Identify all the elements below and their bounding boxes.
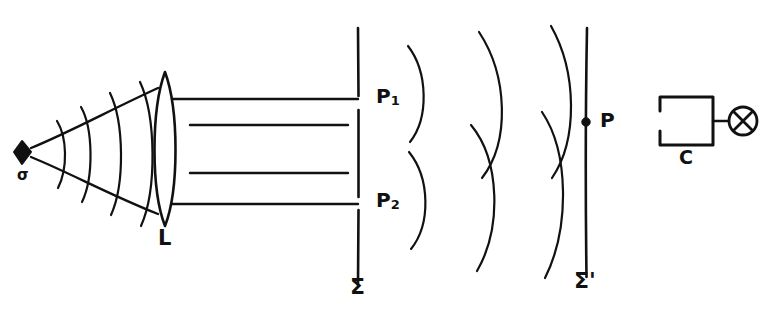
crossed-circle-meter-cross	[734, 112, 752, 130]
wavefront-p2-r3	[542, 112, 563, 278]
detector-group	[660, 97, 757, 145]
wavefront-p1-r2	[479, 32, 502, 178]
diverging-ray-upper	[31, 88, 158, 148]
aperture-screen-group	[358, 28, 359, 285]
diverging-ray-lower	[31, 157, 158, 214]
diverging-wavefront-1	[57, 121, 65, 188]
slit-upper-label-letter: P	[376, 84, 391, 108]
observation-point-label: P	[600, 110, 615, 130]
detector-label: C	[679, 148, 693, 167]
slit-wavefront-group-2	[471, 32, 502, 271]
slit-upper-label-subscript: 1	[391, 93, 400, 108]
source-marker-group	[14, 141, 31, 164]
slit-lower-label-subscript: 2	[391, 197, 400, 212]
detector-box-icon	[660, 97, 713, 145]
diverging-wavefront-4	[140, 82, 153, 226]
observation-point-dot	[582, 118, 591, 127]
source-label: σ	[17, 168, 29, 183]
diamond-source-icon	[14, 141, 31, 164]
wavefront-p1-r1	[408, 46, 424, 142]
aperture-screen-label: Σ	[350, 276, 365, 298]
slit-lower-label: P2	[376, 190, 400, 211]
observation-screen-line	[586, 28, 587, 277]
slit-wavefront-group-1	[408, 46, 425, 249]
parallel-ray-group	[172, 99, 358, 204]
lens-label: L	[158, 228, 171, 249]
diverging-ray-group	[31, 88, 158, 214]
diverging-wavefront-group	[57, 82, 153, 226]
slit-wavefront-group-3	[542, 26, 571, 278]
slit-lower-label-letter: P	[376, 188, 391, 212]
wavefront-p1-r3	[551, 26, 571, 178]
diagram-canvas	[0, 0, 773, 318]
optics-diagram-figure: σ L P1 P2 Σ P Σ' C	[0, 0, 773, 318]
wavefront-p2-r2	[471, 125, 494, 271]
observation-screen-label: Σ'	[574, 270, 596, 292]
aperture-screen-segment-top	[358, 28, 359, 96]
observation-screen-group	[582, 28, 591, 277]
wavefront-p2-r1	[409, 152, 425, 249]
slit-upper-label: P1	[376, 86, 400, 107]
